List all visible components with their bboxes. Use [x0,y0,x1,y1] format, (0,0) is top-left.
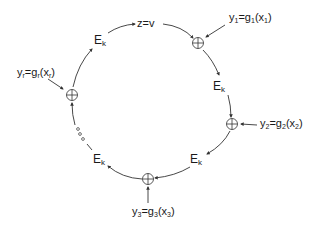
ek-label-3: Ek [93,153,105,165]
ek-label-1: Ek [213,80,225,92]
xor-node-3 [143,174,154,185]
arc-ekr-to-zv [108,24,135,33]
input-label-3: y3=g3(x3) [132,205,175,217]
input-label-1: y1=g1(x1) [229,11,272,23]
ek-label-r: Ek [94,34,106,46]
xor-node-2 [227,119,238,130]
center-label-zv: z=v [137,17,154,29]
arc-ek3-to-dots [87,144,92,150]
arc-xor2-to-ek2 [207,131,230,154]
ellipsis-dots [77,128,85,141]
arc-xor3-to-ek3 [108,166,142,179]
ek-label-2: Ek [190,153,202,165]
arc-ek2-to-xor3 [155,167,190,178]
arc-dots-to-xorr [72,103,75,125]
arc-ek1-to-xor2 [228,95,231,117]
input-label-2: y2=g2(x2) [260,117,303,129]
input-arrow-r [48,79,63,89]
input-label-r: yr=gr(xr) [17,66,55,78]
arc-zv-to-xor1 [163,24,193,38]
xor-node-r [67,90,78,101]
arc-xorr-to-ekr [73,49,92,87]
arc-xor1-to-ek1 [203,50,219,75]
input-arrow-1 [206,25,225,37]
xor-node-1 [193,38,204,49]
input-arrow-2 [241,124,257,125]
